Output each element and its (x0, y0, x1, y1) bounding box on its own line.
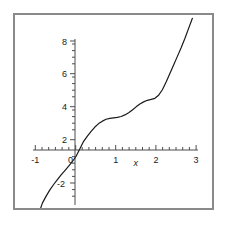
x-axis-title: x (133, 158, 139, 168)
x-tick-label-3: 3 (194, 155, 199, 165)
chart-plot: -1 0 1 2 3 -2 2 4 6 8 x (15, 15, 212, 208)
y-tick-label-neg2: -2 (57, 179, 65, 189)
y-tick-label-2: 2 (62, 135, 67, 145)
x-tick-label-2: 2 (153, 155, 158, 165)
plot-frame: -1 0 1 2 3 -2 2 4 6 8 x (13, 13, 214, 210)
y-tick-label-6: 6 (62, 69, 67, 79)
figure-canvas: -1 0 1 2 3 -2 2 4 6 8 x (0, 0, 229, 227)
x-tick-label-0: 0 (68, 155, 73, 165)
y-tick-label-4: 4 (62, 102, 67, 112)
y-tick-label-8: 8 (62, 37, 67, 47)
x-axis-major-ticks (35, 145, 196, 150)
x-tick-label-1: 1 (113, 155, 118, 165)
x-tick-label-neg1: -1 (31, 155, 39, 165)
